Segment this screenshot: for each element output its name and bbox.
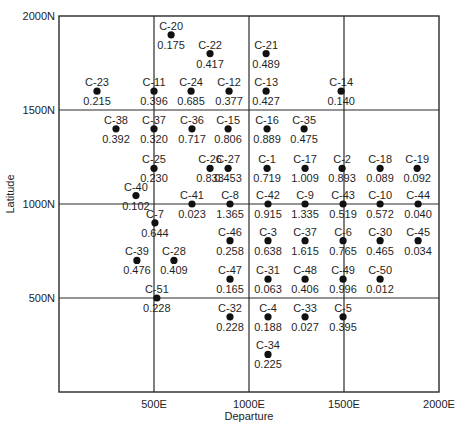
point-marker-icon bbox=[188, 125, 195, 132]
point-value-label: 0.089 bbox=[366, 172, 394, 184]
point-marker-icon bbox=[264, 200, 271, 207]
data-point: C-390.476 bbox=[123, 245, 151, 276]
point-value-label: 0.320 bbox=[140, 133, 168, 145]
point-id-label: C-51 bbox=[145, 283, 169, 295]
point-marker-icon bbox=[339, 200, 346, 207]
data-point: C-320.228 bbox=[216, 302, 244, 333]
point-value-label: 0.165 bbox=[216, 283, 244, 295]
point-id-label: C-11 bbox=[142, 76, 165, 88]
point-marker-icon bbox=[301, 125, 308, 132]
point-value-label: 0.140 bbox=[327, 95, 355, 107]
point-id-label: C-35 bbox=[292, 114, 316, 126]
data-point: C-230.215 bbox=[83, 76, 111, 107]
point-marker-icon bbox=[264, 351, 271, 358]
data-point: C-340.225 bbox=[254, 339, 282, 370]
data-point: C-310.063 bbox=[254, 264, 282, 295]
point-value-label: 0.258 bbox=[216, 245, 244, 257]
point-id-label: C-37 bbox=[293, 226, 317, 238]
point-marker-icon bbox=[415, 237, 422, 244]
point-id-label: C-22 bbox=[198, 39, 222, 51]
point-marker-icon bbox=[263, 125, 270, 132]
point-marker-icon bbox=[414, 165, 421, 172]
point-marker-icon bbox=[338, 88, 345, 95]
point-id-label: C-5 bbox=[334, 302, 352, 314]
point-value-label: 0.023 bbox=[178, 208, 206, 220]
point-value-label: 0.396 bbox=[140, 95, 168, 107]
data-point: C-350.475 bbox=[290, 114, 318, 145]
point-id-label: C-17 bbox=[293, 153, 317, 165]
point-marker-icon bbox=[339, 237, 346, 244]
data-point: C-190.092 bbox=[403, 153, 431, 184]
data-point: C-180.089 bbox=[366, 153, 394, 184]
point-id-label: C-10 bbox=[368, 189, 392, 201]
point-id-label: C-4 bbox=[259, 302, 277, 314]
point-marker-icon bbox=[226, 313, 233, 320]
data-point: C-210.489 bbox=[252, 39, 280, 70]
point-marker-icon bbox=[225, 125, 232, 132]
point-id-label: C-9 bbox=[296, 189, 314, 201]
point-marker-icon bbox=[301, 276, 308, 283]
point-marker-icon bbox=[226, 200, 233, 207]
point-id-label: C-37 bbox=[142, 114, 166, 126]
data-point: C-380.392 bbox=[102, 114, 130, 145]
point-value-label: 0.915 bbox=[254, 208, 282, 220]
y-axis-label: Latitude bbox=[4, 174, 16, 213]
point-value-label: 0.188 bbox=[254, 321, 282, 333]
point-marker-icon bbox=[150, 165, 157, 172]
point-value-label: 0.996 bbox=[329, 283, 357, 295]
point-marker-icon bbox=[153, 294, 160, 301]
data-point: C-60.765 bbox=[329, 226, 357, 257]
data-point: C-40.188 bbox=[254, 302, 282, 333]
y-axis-ticks: 500N1000N1500N2000N bbox=[23, 10, 55, 304]
point-id-label: C-41 bbox=[180, 189, 204, 201]
data-point: C-160.889 bbox=[253, 114, 281, 145]
point-id-label: C-49 bbox=[331, 264, 355, 276]
point-value-label: 0.063 bbox=[254, 283, 282, 295]
point-value-label: 0.034 bbox=[404, 245, 432, 257]
point-id-label: C-46 bbox=[218, 226, 242, 238]
point-marker-icon bbox=[264, 313, 271, 320]
point-value-label: 0.392 bbox=[102, 133, 130, 145]
data-point: C-450.034 bbox=[404, 226, 432, 257]
point-marker-icon bbox=[339, 165, 346, 172]
data-point: C-490.996 bbox=[329, 264, 357, 295]
point-id-label: C-39 bbox=[125, 245, 149, 257]
point-value-label: 0.893 bbox=[328, 172, 356, 184]
point-value-label: 0.175 bbox=[157, 39, 185, 51]
point-marker-icon bbox=[206, 50, 213, 57]
point-id-label: C-12 bbox=[217, 76, 241, 88]
point-value-label: 0.215 bbox=[83, 95, 111, 107]
scatter-plot: 500E1000E1500E2000E 500N1000N1500N2000N … bbox=[0, 0, 459, 429]
data-point: C-200.175 bbox=[157, 20, 185, 51]
point-marker-icon bbox=[170, 257, 177, 264]
point-value-label: 0.040 bbox=[404, 208, 432, 220]
data-point: C-460.258 bbox=[216, 226, 244, 257]
data-point: C-70.644 bbox=[141, 208, 169, 239]
point-value-label: 0.406 bbox=[291, 283, 319, 295]
y-tick-label: 1500N bbox=[23, 104, 55, 116]
point-value-label: 0.489 bbox=[252, 58, 280, 70]
point-id-label: C-8 bbox=[221, 189, 239, 201]
point-id-label: C-33 bbox=[293, 302, 317, 314]
point-id-label: C-30 bbox=[368, 226, 392, 238]
point-marker-icon bbox=[151, 219, 158, 226]
point-id-label: C-50 bbox=[368, 264, 392, 276]
point-value-label: 0.685 bbox=[177, 95, 205, 107]
y-tick-label: 2000N bbox=[23, 10, 55, 22]
point-marker-icon bbox=[263, 50, 270, 57]
point-id-label: C-14 bbox=[329, 76, 353, 88]
point-value-label: 0.465 bbox=[366, 245, 394, 257]
point-id-label: C-25 bbox=[142, 153, 166, 165]
point-id-label: C-7 bbox=[146, 208, 164, 220]
point-marker-icon bbox=[264, 276, 271, 283]
point-marker-icon bbox=[339, 313, 346, 320]
data-point: C-240.685 bbox=[177, 76, 205, 107]
x-tick-label: 1500E bbox=[328, 398, 360, 410]
point-marker-icon bbox=[301, 200, 308, 207]
data-point: C-30.638 bbox=[254, 226, 282, 257]
point-id-label: C-24 bbox=[179, 76, 203, 88]
point-marker-icon bbox=[415, 200, 422, 207]
point-value-label: 0.719 bbox=[253, 172, 281, 184]
point-marker-icon bbox=[377, 237, 384, 244]
data-point: C-500.012 bbox=[366, 264, 394, 295]
